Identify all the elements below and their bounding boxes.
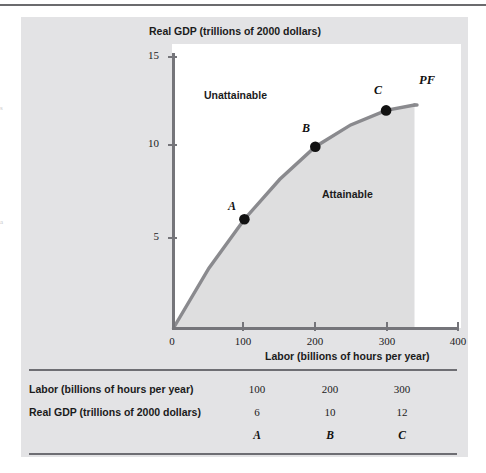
margin-text-fragment-2: a xyxy=(0,218,8,226)
x-tick-label-0: 0 xyxy=(152,335,192,347)
x-tick-200 xyxy=(314,322,316,331)
data-point-label-c: C xyxy=(374,83,382,98)
table-row-header-labor: Labor (billions of hours per year) xyxy=(29,383,239,395)
data-point-a xyxy=(239,214,250,225)
y-tick-15 xyxy=(168,56,177,58)
table-row-header-real-gdp: Real GDP (trillions of 2000 dollars) xyxy=(29,406,239,418)
x-tick-300 xyxy=(386,322,388,331)
x-tick-label-100: 100 xyxy=(223,335,263,347)
table-top-rule xyxy=(29,369,457,371)
x-tick-400 xyxy=(457,322,459,331)
unattainable-region-label: Unattainable xyxy=(204,89,267,101)
data-point-label-b: B xyxy=(302,121,310,136)
y-tick-10 xyxy=(168,144,177,146)
figure-panel: Real GDP (trillions of 2000 dollars) 15 … xyxy=(21,17,468,457)
margin-text-fragment-1: s xyxy=(0,104,8,112)
data-point-c xyxy=(381,105,392,116)
curve-label-pf: PF xyxy=(419,73,435,88)
x-axis-title: Labor (billions of hours per year) xyxy=(265,350,430,362)
x-tick-100 xyxy=(242,322,244,331)
y-tick-5 xyxy=(168,237,177,239)
table-cell-gdp-c: 12 xyxy=(374,406,430,418)
x-tick-label-300: 300 xyxy=(367,335,407,347)
table-cell-point-a: A xyxy=(229,429,285,441)
table-cell-labor-a: 100 xyxy=(229,383,285,395)
table-row: Real GDP (trillions of 2000 dollars) 6 1… xyxy=(21,406,468,428)
chart-graphics xyxy=(21,17,468,352)
y-tick-label-15: 15 xyxy=(133,49,159,61)
x-tick-label-400: 400 xyxy=(438,335,478,347)
attainable-region-label: Attainable xyxy=(322,188,373,200)
table-cell-labor-c: 300 xyxy=(374,383,430,395)
y-axis-line xyxy=(172,53,175,329)
x-tick-label-200: 200 xyxy=(295,335,335,347)
table-row-point-labels: A B C xyxy=(21,429,468,451)
data-point-b xyxy=(310,141,321,152)
attainable-region xyxy=(174,105,415,328)
table-cell-point-c: C xyxy=(374,429,430,441)
table-row: Labor (billions of hours per year) 100 2… xyxy=(21,383,468,405)
table-bottom-rule xyxy=(29,453,457,455)
data-table: Labor (billions of hours per year) 100 2… xyxy=(21,369,468,457)
page-top-rule xyxy=(0,4,486,6)
production-function-chart: Real GDP (trillions of 2000 dollars) 15 … xyxy=(21,17,468,352)
table-cell-labor-b: 200 xyxy=(302,383,358,395)
table-cell-gdp-a: 6 xyxy=(229,406,285,418)
y-tick-label-5: 5 xyxy=(133,230,159,242)
table-cell-gdp-b: 10 xyxy=(302,406,358,418)
y-tick-label-10: 10 xyxy=(133,137,159,149)
table-cell-point-b: B xyxy=(302,429,358,441)
data-point-label-a: A xyxy=(228,199,236,214)
